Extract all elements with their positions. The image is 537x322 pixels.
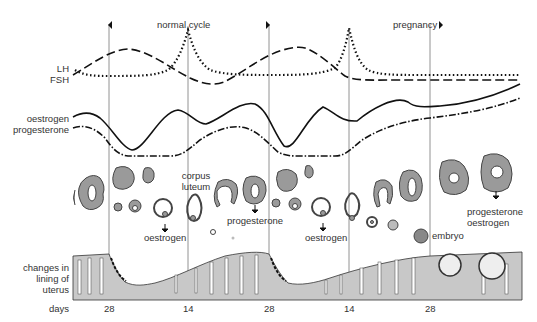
fsh-label: FSH xyxy=(40,74,69,85)
uterus-label-line2: lining of xyxy=(0,273,69,284)
pregnancy-label: pregnancy xyxy=(393,19,437,30)
progesterone-annotation-2: progesterone xyxy=(467,206,523,217)
oestrogen-annotation-1: oestrogen xyxy=(144,232,186,243)
lh-label: LH xyxy=(40,63,69,74)
progesterone-curve xyxy=(73,98,520,156)
oestrogen-curve xyxy=(73,84,520,150)
embryo-label: embryo xyxy=(432,230,464,241)
uterus-label-line3: uterus xyxy=(0,284,69,295)
normal-text: normal xyxy=(157,19,186,30)
menstrual-cycle-diagram xyxy=(0,0,537,322)
day-tick-3: 28 xyxy=(264,303,275,314)
corpus-luteum-label: corpus luteum xyxy=(176,170,216,192)
cycle-text: cycle xyxy=(189,19,211,30)
fsh-curve xyxy=(73,47,520,84)
corpus-text: corpus xyxy=(176,170,216,181)
day-tick-5: 28 xyxy=(425,303,436,314)
oestrogen-annotation-3: oestrogen xyxy=(467,217,509,228)
normal-cycle-label: normal cycle xyxy=(157,19,210,30)
days-label: days xyxy=(0,303,69,314)
lh-curve xyxy=(75,28,520,76)
luteum-text: luteum xyxy=(176,181,216,192)
oestrogen-annotation-2: oestrogen xyxy=(305,232,347,243)
day-tick-4: 14 xyxy=(344,303,355,314)
day-tick-1: 28 xyxy=(104,303,115,314)
arrow-down-icons xyxy=(162,191,499,232)
oestrogen-label: oestrogen xyxy=(0,113,69,124)
progesterone-annotation-1: progesterone xyxy=(227,215,283,226)
progesterone-label: progesterone xyxy=(0,124,69,135)
uterus-label: changes in lining of uterus xyxy=(0,262,69,295)
uterus-label-line1: changes in xyxy=(0,262,69,273)
day-tick-2: 14 xyxy=(183,303,194,314)
